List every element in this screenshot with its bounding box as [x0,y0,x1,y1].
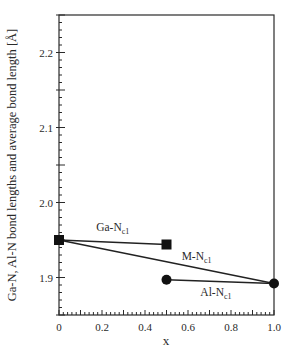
y-tick-label: 2.2 [39,47,53,59]
square-marker [162,240,172,250]
y-tick-label: 1.9 [39,272,53,284]
square-marker [54,235,64,245]
x-tick-label: 0.6 [181,321,195,333]
y-tick-label: 2.0 [39,197,53,209]
series-label: Ga-Nc1 [96,221,129,236]
axis-ticks [56,15,274,315]
bond-length-chart: 00.20.40.60.81.0 1.92.02.12.2 Ga-Nc1M-Nc… [0,0,293,355]
y-axis-label: Ga-N, Al-N bond lengths and average bond… [5,29,19,302]
circle-marker [162,275,172,285]
plot-border [59,15,274,315]
series-label: Al-Nc1 [200,286,231,301]
x-tick-labels: 00.20.40.60.81.0 [56,321,281,333]
y-tick-label: 2.1 [39,122,53,134]
plot-frame [59,15,274,315]
x-tick-label: 0.2 [95,321,109,333]
series-label: M-Nc1 [182,250,212,265]
x-tick-label: 1.0 [267,321,281,333]
y-tick-labels: 1.92.02.12.2 [39,47,53,284]
circle-marker [269,279,279,289]
x-axis-label: x [163,333,170,348]
x-tick-label: 0.4 [138,321,152,333]
x-tick-label: 0 [56,321,62,333]
x-tick-label: 0.8 [224,321,238,333]
